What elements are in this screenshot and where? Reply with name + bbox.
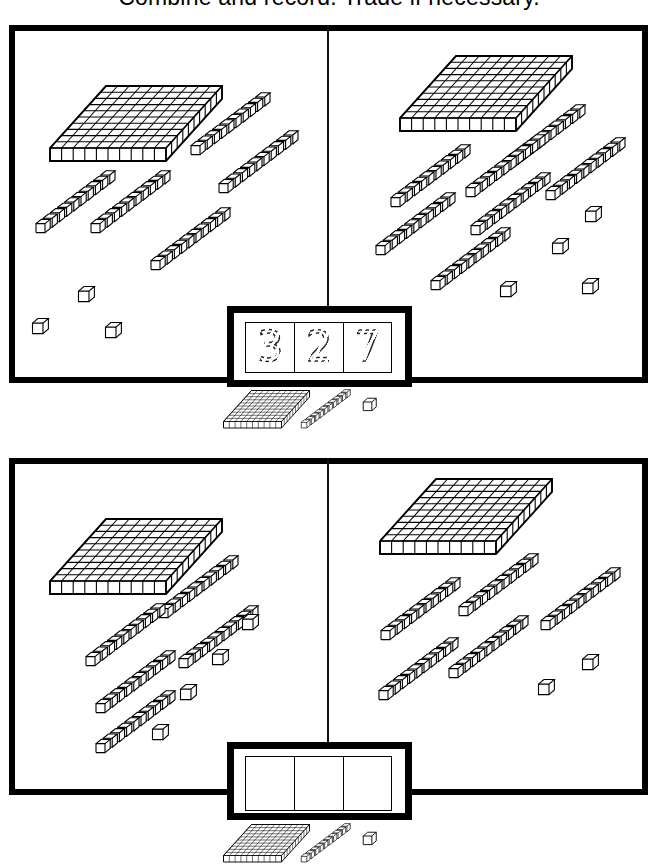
problem-2-legend	[222, 823, 400, 851]
digit-cell-tens[interactable]	[294, 756, 343, 811]
digit-cell-ones[interactable]	[343, 756, 392, 811]
ones-cube-block	[241, 613, 260, 631]
digit-hundreds: 3	[257, 326, 284, 368]
legend-rod-icon	[294, 823, 350, 851]
tens-rod-block	[544, 140, 627, 206]
ones-cube-block	[211, 648, 230, 666]
answer-box-top-cap	[227, 306, 412, 313]
digit-cell-hundreds[interactable]: 3	[245, 322, 294, 373]
digit-cell-tens[interactable]: 2	[294, 322, 343, 373]
digit-ones: 7	[354, 326, 381, 368]
ones-cube-block	[581, 653, 600, 671]
ones-cube-block	[584, 205, 603, 223]
tens-rod-block	[149, 210, 232, 276]
answer-box-top-cap	[227, 742, 412, 749]
ones-cube-block	[537, 678, 556, 696]
ones-cube-block	[551, 237, 570, 255]
ones-cube-block	[31, 317, 50, 335]
digit-cell-hundreds[interactable]	[245, 756, 294, 811]
tens-rod-block	[217, 133, 300, 199]
digit-cell-ones[interactable]: 7	[343, 322, 392, 373]
ones-cube-block	[499, 280, 518, 298]
legend-flat-icon	[222, 823, 294, 851]
legend-cube-icon	[350, 389, 400, 417]
tens-rod-block	[377, 640, 460, 706]
problem-2-digit-cells	[245, 756, 392, 811]
tens-rod-block	[539, 570, 622, 636]
ones-cube-block	[179, 683, 198, 701]
problem-1-answer-box[interactable]: 3 2 7	[227, 313, 412, 387]
ones-cube-block	[581, 277, 600, 295]
hundreds-flat-block	[377, 476, 555, 557]
legend-rod-icon	[294, 389, 350, 417]
ones-cube-block	[104, 321, 123, 339]
legend-cube-icon	[350, 823, 400, 851]
problem-2-answer-box[interactable]	[227, 749, 412, 820]
legend-flat-icon	[222, 389, 294, 417]
ones-cube-block	[151, 723, 170, 741]
page-title: Combine and record. Trade if necessary.	[0, 0, 658, 11]
problem-1-legend	[222, 389, 400, 417]
ones-cube-block	[77, 285, 96, 303]
problem-1-digit-cells: 3 2 7	[245, 322, 392, 373]
digit-tens: 2	[306, 326, 333, 368]
tens-rod-block	[457, 556, 540, 622]
